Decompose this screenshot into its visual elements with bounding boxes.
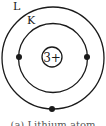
electron-l-1: [49, 106, 55, 112]
diagram-caption: (a) Lithium atom: [10, 119, 96, 126]
nucleus-charge-label: 3+: [43, 51, 61, 65]
electron-k-2: [84, 54, 90, 60]
atom-diagram: 3+ L K (a) Lithium atom: [0, 0, 106, 126]
shell-l-label: L: [13, 0, 21, 13]
shell-k-label: K: [27, 14, 36, 27]
electron-k-1: [16, 54, 22, 60]
